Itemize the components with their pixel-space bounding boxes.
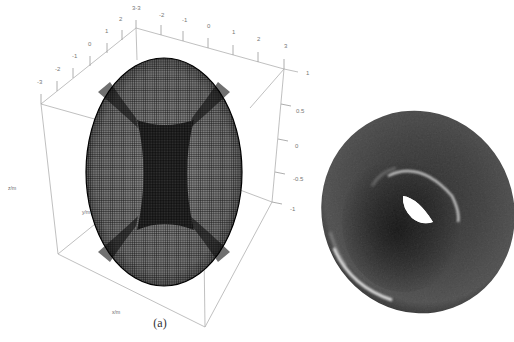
- x-axis-label: x/m: [112, 309, 120, 315]
- shaded-torus-render: [310, 0, 514, 342]
- z-ticks: [272, 104, 291, 204]
- corner-tick-label: 3-3: [132, 5, 141, 11]
- y-tick-label: 0: [207, 23, 211, 29]
- z-axis-label: z/m: [8, 185, 16, 191]
- y-tick-label: -2: [159, 12, 165, 18]
- x-tick-label: 1: [105, 28, 109, 34]
- x-tick-label: -3: [37, 79, 43, 85]
- y-tick-label: 2: [257, 36, 261, 42]
- x-tick-label: 2: [119, 16, 123, 22]
- y-axis-label: y/m: [82, 209, 90, 215]
- solid-torus: [310, 83, 514, 340]
- y-tick-label: 1: [232, 29, 236, 35]
- z-tick-label: 0: [295, 143, 299, 149]
- x-tick-label: 0: [88, 41, 92, 47]
- y-tick-label: 3: [284, 43, 288, 49]
- z-tick-label: 0.5: [296, 108, 305, 114]
- z-tick-label: -0.5: [293, 176, 304, 182]
- x-tick-label: -1: [72, 53, 78, 59]
- wireframe-torus: [86, 58, 242, 286]
- y-tick-label: -1: [182, 17, 188, 23]
- panel-caption-a: (a): [130, 316, 190, 331]
- x-tick-label: -2: [55, 66, 61, 72]
- figure-panel-a: -3 -2 -1 0 1 2 3-3 -2 -1 0 1 2 3: [0, 0, 310, 342]
- z-tick-label: -1: [290, 206, 296, 212]
- wireframe-torus-plot: -3 -2 -1 0 1 2 3-3 -2 -1 0 1 2 3: [0, 0, 310, 342]
- figure-panel-b: (b): [310, 0, 514, 342]
